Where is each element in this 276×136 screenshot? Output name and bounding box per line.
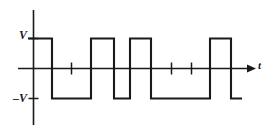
axis-label-time: t: [258, 60, 261, 71]
axis-label-v-positive: V: [19, 29, 27, 41]
time-axis-arrow-icon: [247, 65, 256, 73]
axis-label-v-negative: –V: [13, 92, 27, 104]
waveform-diagram: [0, 0, 276, 136]
waveform-figure: V –V t: [0, 0, 276, 136]
